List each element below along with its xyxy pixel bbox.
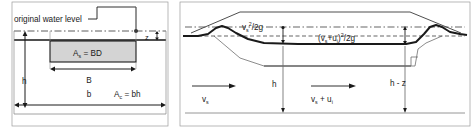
depth-h-label-right: h xyxy=(272,80,277,89)
channel-area-label: Ac = bh xyxy=(114,90,141,100)
original-bed-profile xyxy=(214,36,415,66)
original-water-level-label: original water level xyxy=(14,15,82,24)
downstream-velocity-head-label: (vs+ui)2/2g xyxy=(318,32,356,44)
upstream-velocity-arrow-head xyxy=(229,83,236,88)
depth-h-label: h xyxy=(22,77,27,86)
h-arrow-up xyxy=(23,31,28,36)
downstream-velocity-arrow-head xyxy=(349,83,356,88)
panel-energy-head-section: vs2/2g (vs+ui)2/2g h h - z vs vs + ui xyxy=(178,0,472,130)
width-B-label: B xyxy=(86,76,92,85)
depth-h-minus-z-label: h - z xyxy=(390,79,406,88)
b-arrow-left xyxy=(14,103,19,108)
blockage-area-label: As = BD xyxy=(73,49,102,59)
figure-root: original water level As = BD h B b Ac = … xyxy=(0,0,472,130)
z-arrow-up xyxy=(155,31,159,34)
B-arrow-left xyxy=(50,67,55,72)
upstream-velocity-label: vs xyxy=(202,95,209,105)
original-bed-profile-right xyxy=(415,36,442,66)
upstream-velocity-head-label: vs2/2g xyxy=(242,21,264,33)
h-minus-z-arrow-down xyxy=(403,108,407,113)
original-water-level-leader xyxy=(97,7,136,31)
panel-right-frame xyxy=(180,2,470,126)
downstream-velocity-label: vs + ui xyxy=(311,95,333,105)
upstream-head-point xyxy=(281,26,284,29)
h-arrow-down-right xyxy=(281,108,285,113)
width-b-label: b xyxy=(87,90,92,99)
panel-channel-cross-section: original water level As = BD h B b Ac = … xyxy=(0,0,178,130)
b-arrow-right xyxy=(161,103,166,108)
rise-z-label: z xyxy=(145,33,149,42)
B-arrow-right xyxy=(131,67,136,72)
